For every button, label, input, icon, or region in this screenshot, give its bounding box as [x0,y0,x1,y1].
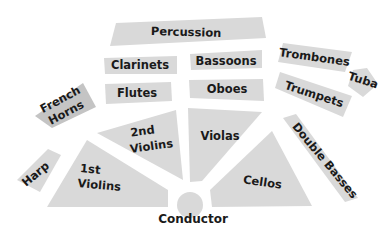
section-bassoons: Bassoons [190,50,262,70]
clarinets-label: Clarinets [111,58,169,72]
conductor-label: Conductor [158,212,228,226]
section-tuba: Tuba [346,68,380,97]
section-trumpets: Trumpets [275,72,352,117]
section-percussion: Percussion [110,17,266,46]
trumpets-label: Trumpets [283,78,345,110]
oboes-label: Oboes [207,82,248,96]
bassoons-label: Bassoons [195,54,256,68]
violas-label: Violas [200,129,239,143]
section-clarinets: Clarinets [104,56,177,74]
section-harp: Harp [17,149,61,192]
section-oboes: Oboes [189,79,264,101]
section-flutes: Flutes [105,82,172,104]
section-french-horns: French Horns [35,83,96,128]
first-violins-label-line1: 1st [80,161,102,177]
percussion-label: Percussion [151,24,222,40]
section-trombones: Trombones [278,43,352,72]
flutes-label: Flutes [117,86,157,100]
orchestra-seating-diagram: Percussion Clarinets Bassoons Flutes Obo… [0,0,391,229]
